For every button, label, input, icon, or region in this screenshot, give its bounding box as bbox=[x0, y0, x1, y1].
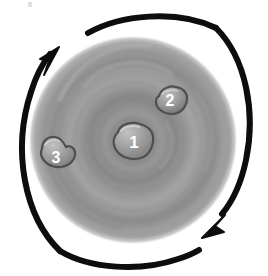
marker-2-label: 2 bbox=[166, 92, 175, 109]
rotation-diagram-figure: 1 2 3 bbox=[0, 0, 268, 276]
diagram-canvas: 1 2 3 bbox=[0, 0, 268, 276]
marker-3-label: 3 bbox=[52, 149, 61, 166]
marker-1-label: 1 bbox=[129, 133, 138, 152]
marker-1[interactable]: 1 bbox=[114, 123, 154, 159]
scan-speck bbox=[28, 2, 32, 7]
marker-2[interactable]: 2 bbox=[156, 86, 187, 114]
